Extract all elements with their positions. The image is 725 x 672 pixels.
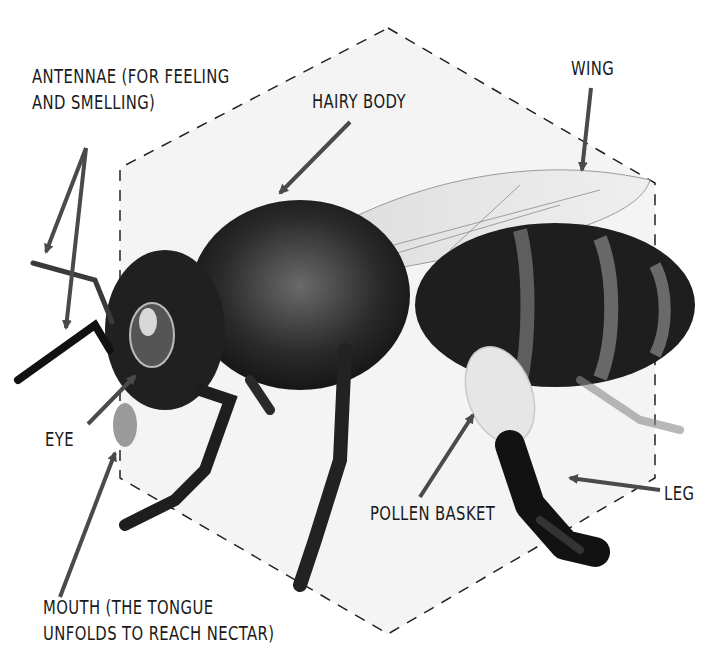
- label-hairy-body: HAIRY BODY: [312, 88, 406, 114]
- mouth-shape: [113, 403, 137, 447]
- antenna-lower: [18, 325, 110, 380]
- bee-anatomy-diagram: ANTENNAE (FOR FEELING AND SMELLING) HAIR…: [0, 0, 725, 672]
- label-mouth: MOUTH (THE TONGUE UNFOLDS TO REACH NECTA…: [43, 594, 274, 646]
- thorax-shape: [190, 200, 410, 390]
- arrow-mouth: [60, 453, 115, 597]
- label-eye: EYE: [45, 426, 74, 452]
- label-wing: WING: [571, 55, 614, 81]
- label-antennae: ANTENNAE (FOR FEELING AND SMELLING): [32, 63, 230, 115]
- label-pollen-basket: POLLEN BASKET: [370, 500, 495, 526]
- abdomen-shape: [415, 223, 695, 387]
- label-leg: LEG: [664, 480, 694, 506]
